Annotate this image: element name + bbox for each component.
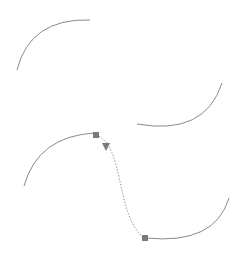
arc-top-left[interactable]	[17, 20, 90, 70]
drawing-canvas[interactable]	[0, 0, 243, 256]
arc-bottom-right[interactable]	[146, 198, 229, 239]
blend-end-handle[interactable]	[142, 235, 148, 241]
blend-start-handle[interactable]	[93, 132, 99, 138]
blend-curve[interactable]	[96, 135, 144, 238]
arc-bottom-left[interactable]	[24, 133, 95, 186]
arc-top-right[interactable]	[137, 83, 222, 126]
